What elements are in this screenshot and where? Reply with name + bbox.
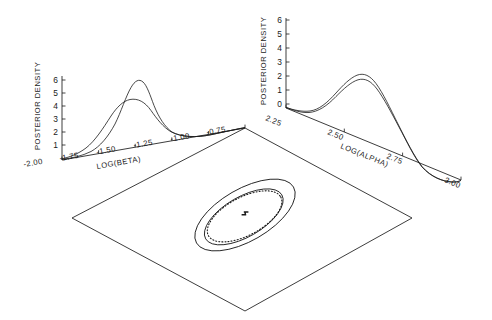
- alpha-xtick-1: 2.50: [326, 128, 345, 143]
- alpha-marginal-panel: 6 5 4 3 2 1 0 POSTERIOR DENSITY 2.25 2.5…: [259, 15, 462, 190]
- beta-x-axis-label: LOG(BETA): [96, 154, 142, 171]
- alpha-ytick-3: 3: [277, 57, 282, 67]
- posterior-density-figure: 6 5 4 3 2 1 POSTERIOR DENSITY -2.00 -1.7…: [0, 0, 492, 320]
- alpha-y-axis-label: POSTERIOR DENSITY: [259, 17, 268, 105]
- alpha-ytick-4: 4: [277, 43, 282, 53]
- beta-marginal-panel: 6 5 4 3 2 1 POSTERIOR DENSITY -2.00 -1.7…: [23, 62, 245, 171]
- alpha-ytick-2: 2: [277, 71, 282, 81]
- figure-canvas: 6 5 4 3 2 1 POSTERIOR DENSITY -2.00 -1.7…: [0, 0, 492, 320]
- alpha-curve-broad: [286, 79, 461, 182]
- beta-xtick-0: -2.00: [23, 157, 44, 169]
- beta-ytick-2: 2: [53, 127, 58, 137]
- joint-contour-panel: [184, 164, 307, 265]
- alpha-ytick-5: 5: [277, 29, 282, 39]
- contour-center-marker: [242, 211, 249, 215]
- alpha-y-ticks: [286, 20, 290, 104]
- alpha-x-ticks: [286, 105, 461, 180]
- beta-y-ticks: [62, 80, 66, 145]
- beta-curve-narrow: [62, 80, 245, 159]
- beta-ytick-3: 3: [53, 114, 58, 124]
- beta-ytick-4: 4: [53, 101, 58, 111]
- alpha-xtick-0: 2.25: [264, 114, 283, 129]
- alpha-ytick-0: 0: [277, 99, 282, 109]
- alpha-x-axis-label: LOG(ALPHA): [339, 142, 390, 169]
- alpha-ytick-1: 1: [277, 85, 282, 95]
- beta-density-curves: [62, 80, 245, 159]
- alpha-xtick-3: 3.00: [443, 176, 462, 191]
- beta-ytick-6: 6: [53, 75, 58, 85]
- beta-ytick-1: 1: [53, 140, 58, 150]
- alpha-density-curves: [286, 74, 461, 182]
- beta-ytick-5: 5: [53, 88, 58, 98]
- beta-xtick-3: -1.25: [133, 138, 154, 150]
- alpha-ytick-6: 6: [277, 15, 282, 25]
- beta-y-axis-label: POSTERIOR DENSITY: [33, 62, 42, 150]
- alpha-x-axis: [286, 108, 461, 180]
- alpha-curve-narrow: [286, 74, 461, 182]
